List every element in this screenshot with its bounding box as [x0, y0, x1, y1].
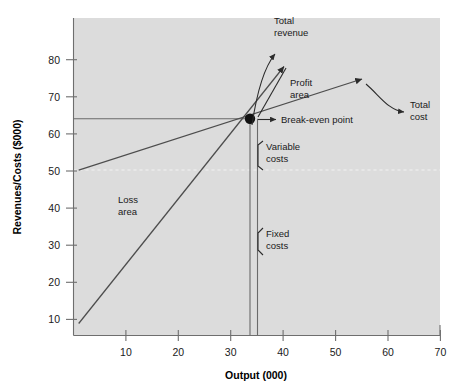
- x-tick-label-40: 40: [277, 346, 289, 358]
- annotation-variable-costs-line2: costs: [266, 153, 288, 164]
- x-tick-label-10: 10: [120, 346, 132, 358]
- annotation-fixed-costs-line1: Fixed: [266, 228, 289, 239]
- annotation-total-cost-line1: Total: [410, 99, 430, 110]
- x-tick-label-60: 60: [382, 346, 394, 358]
- break-even-chart: 80 70 60 50 40 30 20 10 10 20 30 40 50 6…: [0, 0, 457, 391]
- y-tick-label-60: 60: [48, 128, 60, 140]
- x-tick-label-70: 70: [435, 346, 447, 358]
- y-tick-label-70: 70: [48, 91, 60, 103]
- y-tick-label-10: 10: [48, 313, 60, 325]
- y-axis-title: Revenues/Costs ($000): [11, 120, 23, 235]
- y-tick-label-30: 30: [48, 239, 60, 251]
- annotation-profit-area-line1: Profit: [290, 77, 313, 88]
- plot-area-background: [73, 18, 440, 335]
- annotation-loss-area-line1: Loss: [118, 194, 138, 205]
- x-axis-title: Output (000): [225, 369, 287, 381]
- chart-canvas: 80 70 60 50 40 30 20 10 10 20 30 40 50 6…: [0, 0, 457, 391]
- y-tick-label-20: 20: [48, 276, 60, 288]
- x-tick-label-30: 30: [225, 346, 237, 358]
- annotation-loss-area-line2: area: [118, 206, 138, 217]
- annotation-total-cost-line2: cost: [410, 111, 428, 122]
- y-tick-label-50: 50: [48, 165, 60, 177]
- x-tick-label-50: 50: [330, 346, 342, 358]
- annotation-break-even-point: Break-even point: [281, 114, 353, 125]
- y-tick-label-80: 80: [48, 54, 60, 66]
- annotation-profit-area-line2: area: [290, 89, 310, 100]
- annotation-total-revenue-line2: revenue: [274, 27, 308, 38]
- annotation-variable-costs-line1: Variable: [266, 141, 300, 152]
- y-tick-label-40: 40: [48, 202, 60, 214]
- annotation-total-revenue-line1: Total: [274, 15, 294, 26]
- x-tick-label-20: 20: [172, 346, 184, 358]
- annotation-fixed-costs-line2: costs: [266, 240, 288, 251]
